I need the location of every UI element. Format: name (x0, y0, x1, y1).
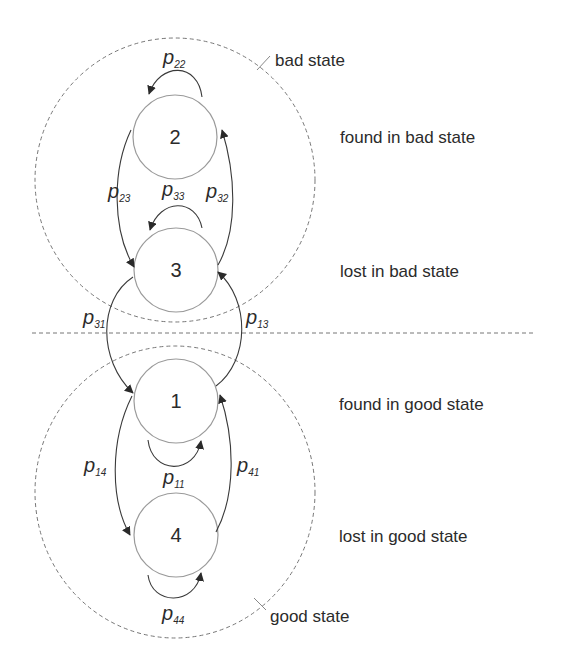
svg-text:p11: p11 (162, 466, 185, 490)
label-p44: p44 (161, 602, 185, 626)
node-3-label: 3 (170, 259, 181, 281)
label-p22: p22 (162, 46, 186, 70)
markov-state-diagram: 2 3 1 4 p22 p23 (0, 0, 561, 665)
node-4-label: 4 (170, 524, 181, 546)
arrow-p22 (149, 70, 202, 97)
node-4-description: lost in good state (339, 527, 468, 546)
node-1-description: found in good state (339, 395, 484, 414)
label-p11: p11 (162, 466, 185, 490)
svg-text:p44: p44 (161, 602, 185, 626)
arrow-p41 (216, 395, 231, 532)
arrow-p31 (107, 277, 133, 393)
node-3-description: lost in bad state (340, 262, 459, 281)
arrow-p13 (216, 272, 242, 386)
label-p33: p33 (161, 178, 185, 202)
label-p41: p41 (236, 454, 259, 478)
svg-text:p33: p33 (161, 178, 185, 202)
good-state-label: good state (270, 607, 349, 626)
bad-state-leader (257, 56, 270, 70)
node-2[interactable]: 2 (133, 95, 217, 179)
svg-text:p13: p13 (245, 306, 269, 330)
svg-text:p32: p32 (205, 180, 229, 204)
svg-text:p31: p31 (82, 306, 105, 330)
label-p23: p23 (107, 180, 131, 204)
label-p14: p14 (83, 454, 107, 478)
node-4[interactable]: 4 (134, 493, 218, 577)
node-2-label: 2 (169, 126, 180, 148)
arrow-p33 (150, 206, 202, 230)
node-2-description: found in bad state (340, 128, 475, 147)
svg-text:p23: p23 (107, 180, 131, 204)
node-1-label: 1 (170, 390, 181, 412)
svg-text:p22: p22 (162, 46, 186, 70)
bad-state-label: bad state (275, 51, 345, 70)
arrow-p14 (115, 396, 132, 535)
node-1[interactable]: 1 (134, 359, 218, 443)
arrow-p11 (148, 440, 201, 466)
label-p13: p13 (245, 306, 269, 330)
label-p31: p31 (82, 306, 105, 330)
label-p32: p32 (205, 180, 229, 204)
node-3[interactable]: 3 (134, 228, 218, 312)
svg-text:p14: p14 (83, 454, 107, 478)
svg-text:p41: p41 (236, 454, 259, 478)
